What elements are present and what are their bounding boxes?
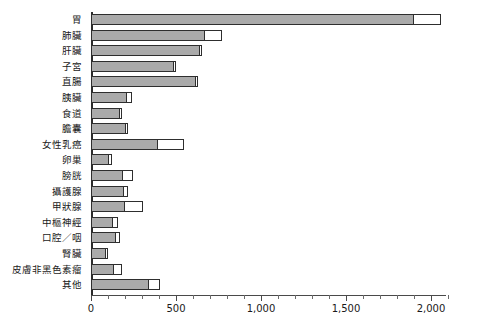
bar-segment-gray	[91, 264, 114, 275]
bar-segment-white	[125, 123, 128, 134]
category-label: 腎臟	[62, 249, 82, 259]
category-label: 直腸	[62, 77, 82, 87]
bar-segment-gray	[91, 201, 125, 212]
x-tick-minor	[329, 295, 330, 299]
bar-segment-white	[112, 217, 118, 228]
plot-area: 胃肺臟肝臟子宮直腸胰臟食道膽囊女性乳癌卵巢膀胱攝護腺甲狀腺中樞神經口腔／咽腎臟皮…	[0, 0, 477, 335]
bar-segment-white	[115, 232, 120, 243]
bar-segment-white	[199, 45, 202, 56]
bar-segment-gray	[91, 61, 175, 72]
bar-segment-white	[173, 61, 176, 72]
bar-segment-gray	[91, 92, 127, 103]
category-label: 其他	[62, 280, 82, 290]
bar-segment-white	[204, 30, 222, 41]
category-label: 膀胱	[62, 171, 82, 181]
bar-chart: 胃肺臟肝臟子宮直腸胰臟食道膽囊女性乳癌卵巢膀胱攝護腺甲狀腺中樞神經口腔／咽腎臟皮…	[0, 0, 477, 335]
bar-segment-gray	[91, 279, 150, 290]
x-tick-minor	[108, 295, 109, 299]
bar-segment-gray	[91, 170, 123, 181]
x-tick-label: 500	[166, 303, 185, 314]
bar-segment-gray	[91, 232, 116, 243]
bar-segment-gray	[91, 217, 113, 228]
x-tick-major	[431, 295, 432, 301]
x-tick-minor	[125, 295, 126, 299]
category-label: 甲狀腺	[52, 202, 82, 212]
bar-segment-gray	[91, 76, 197, 87]
bar-segment-white	[122, 170, 133, 181]
x-tick-label: 0	[88, 303, 94, 314]
bar-segment-white	[123, 186, 128, 197]
x-tick-minor	[312, 295, 313, 299]
bar-segment-white	[119, 108, 122, 119]
bar-segment-gray	[91, 30, 205, 41]
bar-segment-white	[157, 139, 184, 150]
x-tick-label: 1,500	[332, 303, 361, 314]
category-label: 肺臟	[62, 31, 82, 41]
x-tick-minor	[380, 295, 381, 299]
category-axis-labels: 胃肺臟肝臟子宮直腸胰臟食道膽囊女性乳癌卵巢膀胱攝護腺甲狀腺中樞神經口腔／咽腎臟皮…	[0, 12, 86, 296]
bar-segment-gray	[91, 186, 125, 197]
x-tick-minor	[448, 295, 449, 299]
x-tick-label: 2,000	[417, 303, 446, 314]
category-label: 食道	[62, 109, 82, 119]
category-label: 胃	[72, 15, 82, 25]
x-tick-minor	[193, 295, 194, 299]
x-tick-minor	[295, 295, 296, 299]
x-tick-minor	[414, 295, 415, 299]
category-label: 肝臟	[62, 46, 82, 56]
bar-segment-white	[413, 14, 442, 25]
x-tick-major	[176, 295, 177, 301]
x-tick-label: 1,000	[247, 303, 276, 314]
x-tick-minor	[142, 295, 143, 299]
x-tick-minor	[159, 295, 160, 299]
category-label: 胰臟	[62, 93, 82, 103]
category-label: 子宮	[62, 62, 82, 72]
bar-segment-gray	[91, 108, 120, 119]
bar-segment-white	[105, 248, 108, 259]
x-axis-line	[91, 295, 446, 296]
x-tick-minor	[397, 295, 398, 299]
category-label: 中樞神經	[42, 218, 82, 228]
bar-segment-gray	[91, 139, 158, 150]
bar-segment-gray	[91, 123, 127, 134]
x-tick-minor	[278, 295, 279, 299]
bar-segment-white	[148, 279, 160, 290]
bar-segment-gray	[91, 14, 414, 25]
x-tick-minor	[227, 295, 228, 299]
category-label: 女性乳癌	[42, 140, 82, 150]
category-label: 卵巢	[62, 155, 82, 165]
bar-segment-gray	[91, 154, 110, 165]
bar-segment-gray	[91, 45, 200, 56]
bar-segment-white	[195, 76, 198, 87]
category-label: 攝護腺	[52, 187, 82, 197]
category-label: 皮膚非黑色素瘤	[12, 265, 82, 275]
x-tick-minor	[244, 295, 245, 299]
bar-segment-white	[113, 264, 123, 275]
x-tick-minor	[210, 295, 211, 299]
bar-segment-white	[124, 201, 144, 212]
x-tick-major	[346, 295, 347, 301]
bar-segment-white	[126, 92, 132, 103]
x-tick-major	[261, 295, 262, 301]
bar-segment-white	[108, 154, 111, 165]
x-tick-major	[91, 295, 92, 301]
category-label: 膽囊	[62, 124, 82, 134]
category-label: 口腔／咽	[42, 233, 82, 243]
x-tick-minor	[363, 295, 364, 299]
